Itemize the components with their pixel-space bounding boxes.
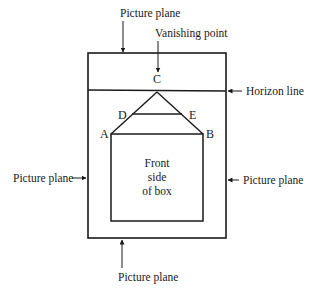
point-label-c: C (153, 72, 161, 86)
label-picture-plane-right: Picture plane (243, 174, 303, 187)
label-picture-plane-top: Picture plane (120, 7, 180, 20)
label-horizon-line: Horizon line (246, 85, 304, 97)
perspective-diagram: C D E A B Front side of box Picture plan… (0, 0, 313, 292)
point-label-d: D (118, 108, 127, 122)
point-label-b: B (206, 127, 214, 141)
point-label-e: E (189, 108, 196, 122)
label-vanishing-point: Vanishing point (155, 27, 228, 40)
label-picture-plane-left: Picture plane (13, 172, 73, 185)
point-label-a: A (100, 127, 109, 141)
box-text-line-3: of box (142, 185, 172, 197)
box-text-line-1: Front (145, 157, 171, 169)
horizon-line (88, 90, 226, 91)
box-text-line-2: side (148, 171, 167, 183)
label-picture-plane-bottom: Picture plane (118, 271, 178, 284)
